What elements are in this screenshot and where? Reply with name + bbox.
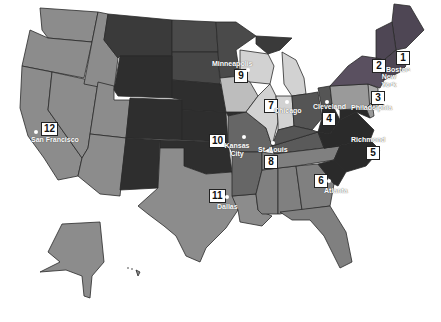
minneapolis-dot [246, 68, 250, 72]
district-8-number: 8 [264, 155, 278, 169]
dallas-dot [225, 195, 229, 199]
boston-dot [407, 71, 411, 75]
cleveland-dot [325, 100, 329, 104]
us-federal-reserve-map [0, 0, 441, 322]
district-11-number: 11 [209, 189, 226, 203]
district-2-number: 2 [372, 59, 386, 73]
atlanta-dot [327, 179, 331, 183]
chicago-dot [285, 100, 289, 104]
district-12-number: 12 [41, 122, 58, 136]
district-3-city: Philadelphia [351, 104, 392, 112]
new-york-dot [390, 86, 394, 90]
district-6-number: 6 [314, 174, 328, 188]
district-4-number: 4 [322, 112, 336, 126]
district-5-city: Richmond [351, 136, 385, 144]
district-10-city: Kansas City [224, 142, 250, 158]
district-2-city: New York [374, 73, 404, 89]
district-9-city: Minneapolis [212, 60, 252, 68]
st-louis-dot [271, 141, 275, 145]
san-francisco-dot [34, 130, 38, 134]
district-1-number: 1 [396, 51, 410, 65]
district-5-number: 5 [366, 146, 380, 160]
district-8-city: St. Louis [258, 146, 288, 154]
district-11-city: Dallas [217, 203, 238, 211]
district-7-city: Chicago [274, 107, 302, 115]
district-12-city: San Francisco [31, 136, 79, 144]
philadelphia-dot [383, 101, 387, 105]
richmond-dot [375, 131, 379, 135]
district-6-city: Atlanta [324, 187, 348, 195]
kansas-city-dot [242, 135, 246, 139]
district-4-city: Cleveland [313, 103, 346, 111]
